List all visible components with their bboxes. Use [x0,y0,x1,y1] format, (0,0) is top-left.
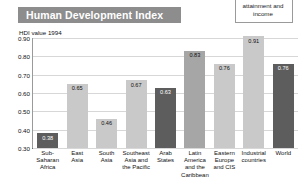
y-axis-tick: 0.70 [18,71,30,78]
x-axis-label-line: Saharan [32,157,64,164]
y-axis-tick: 0.80 [18,53,30,60]
plot-area: 0.900.800.700.600.500.400.30 0.380.650.4… [33,38,298,148]
x-axis-label: Industrialcountries [238,150,270,164]
bar-column: 0.91 [243,38,264,148]
x-axis-label-line: South [91,150,123,157]
bar-value-label: 0.83 [184,52,205,58]
chart-figure: Human Development Index attainment and i… [0,0,303,181]
x-axis-label-line: countries [238,157,270,164]
y-axis-tick: 0.40 [18,126,30,133]
x-axis-label-line: Latin [179,150,211,157]
bar-value-label: 0.38 [37,135,58,141]
bar [214,64,235,148]
bar [184,51,205,148]
x-axis-label-line: Europe [208,157,240,164]
bar-column: 0.38 [37,38,58,148]
x-axis-label-line: America [179,157,211,164]
x-axis-label-line: Asia and [120,157,152,164]
x-axis-label-line: Southeast [120,150,152,157]
x-axis-label: SouthAsia [91,150,123,164]
x-axis-label: EastAsia [61,150,93,164]
x-axis-label-line: States [150,157,182,164]
y-axis-tick: 0.60 [18,90,30,97]
bar-column: 0.65 [67,38,88,148]
x-axis-label-line: and CIS [208,164,240,171]
x-axis-label-line: Eastern [208,150,240,157]
x-axis-label-line: Caribbean [179,172,211,179]
x-axis-label: ArabStates [150,150,182,164]
bar-column: 0.63 [155,38,176,148]
bar-value-label: 0.76 [214,65,235,71]
x-axis-label-line: Arab [150,150,182,157]
x-axis-label: EasternEuropeand CIS [208,150,240,172]
y-axis-tick: 0.30 [18,145,30,152]
x-axis-label: LatinAmericaand theCaribbean [179,150,211,179]
bar [126,80,147,148]
x-axis-label-line: the Pacific [120,164,152,171]
x-axis-label-line: Asia [91,157,123,164]
x-axis-labels: Sub-SaharanAfricaEastAsiaSouthAsiaSouthe… [33,150,298,181]
x-axis-label-line: Sub- [32,150,64,157]
bar-value-label: 0.46 [96,120,117,126]
y-axis-tick: 0.90 [18,35,30,42]
bar-column: 0.83 [184,38,205,148]
x-axis-label-line: Industrial [238,150,270,157]
bar-value-label: 0.91 [243,38,264,44]
bar-column: 0.76 [273,38,294,148]
bar-value-label: 0.65 [67,85,88,91]
x-axis-label-line: East [61,150,93,157]
bar [155,88,176,149]
legend-note: attainment and income [236,2,290,18]
x-axis-label: Sub-SaharanAfrica [32,150,64,172]
x-axis-label-line: and the [179,164,211,171]
bar [243,36,264,148]
x-axis-label: World [267,150,299,157]
x-axis-label-line: World [267,150,299,157]
bar-value-label: 0.67 [126,82,147,88]
bar-series: 0.380.650.460.670.630.830.760.910.76 [33,38,298,148]
x-axis-label-line: Asia [61,157,93,164]
bar-column: 0.76 [214,38,235,148]
bar-value-label: 0.63 [155,89,176,95]
bar-value-label: 0.76 [273,65,294,71]
page-title: Human Development Index [26,9,163,21]
y-axis-tick: 0.50 [18,108,30,115]
gridline: 0.30 [33,148,298,149]
bar-column: 0.67 [126,38,147,148]
x-axis-label: SoutheastAsia andthe Pacific [120,150,152,172]
x-axis-label-line: Africa [32,164,64,171]
bar-column: 0.46 [96,38,117,148]
bar [273,64,294,148]
bar [67,84,88,148]
